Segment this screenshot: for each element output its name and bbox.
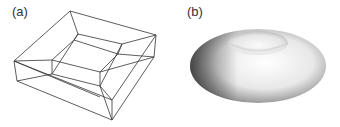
- panel-a-wireframe: (a): [0, 0, 170, 127]
- shaded-torus-icon: [170, 0, 340, 127]
- wireframe-torus-icon: [0, 0, 170, 127]
- panel-b-shaded: (b): [170, 0, 340, 127]
